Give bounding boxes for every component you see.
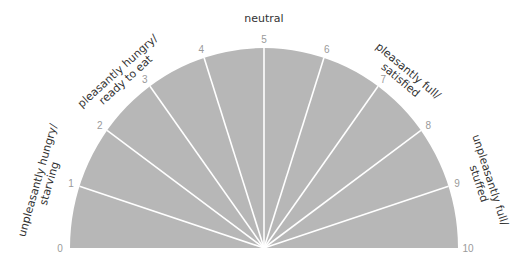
scale-number-6: 6 — [324, 44, 330, 55]
scale-number-0: 0 — [57, 243, 63, 254]
scale-number-10: 10 — [462, 243, 474, 254]
scale-number-8: 8 — [425, 120, 431, 131]
scale-number-1: 1 — [68, 178, 74, 189]
label-unpleasantly-hungry: unpleasantly hungry/ starving — [15, 122, 71, 242]
scale-number-4: 4 — [198, 44, 204, 55]
scale-number-2: 2 — [97, 120, 103, 131]
label-neutral: neutral — [244, 12, 283, 25]
scale-number-9: 9 — [454, 178, 460, 189]
scale-number-3: 3 — [142, 74, 148, 85]
scale-number-5: 5 — [261, 34, 267, 45]
hunger-scale-diagram: 012345678910 neutral unpleasantly hungry… — [0, 0, 528, 266]
label-unpleasantly-full: unpleasantly full/ stuffed — [458, 133, 511, 231]
